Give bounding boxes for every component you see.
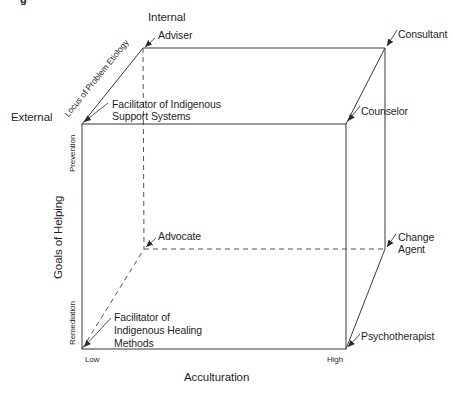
role-psychotherapist: Psychotherapist [361,330,434,342]
role-change-agent: Change Agent [398,231,434,255]
internal-label: Internal [148,11,186,23]
role-adviser: Adviser [158,29,192,41]
acculturation-axis-title: Acculturation [184,371,249,383]
high-label: High [327,355,343,364]
back-left-hidden-edge [143,48,144,249]
arrow-consultant [387,30,397,46]
role-advocate: Advocate [158,230,201,242]
arrow-advocate [146,238,156,247]
role-counselor: Counselor [361,105,408,117]
role-facilitator-support: Facilitator of Indigenous Support System… [112,98,221,122]
prevention-label: Prevention [68,135,77,172]
arrow-change-agent [387,234,396,247]
arrow-adviser [145,38,155,47]
external-label: External [11,111,52,123]
role-consultant: Consultant [398,28,447,40]
goals-axis-title: Goals of Helping [52,196,64,279]
low-label: Low [85,355,99,364]
arrow-facilitator-healing [84,318,111,347]
role-facilitator-healing: Facilitator of Indigenous Healing Method… [114,311,202,350]
remediation-label: Remediation [68,301,77,345]
